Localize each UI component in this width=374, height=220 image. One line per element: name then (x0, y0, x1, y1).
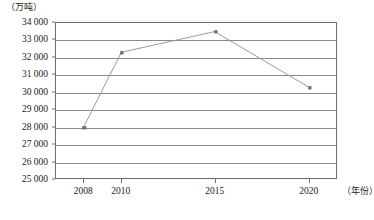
x-axis-tick-mark (121, 179, 122, 183)
x-axis-unit-label: （年份） (342, 186, 374, 197)
x-axis-tick-mark (309, 179, 310, 183)
x-axis-tick-label: 2015 (205, 186, 224, 197)
x-axis-tick-label: 2010 (111, 186, 130, 197)
x-axis-tick-label-group: 2008201020152020 (0, 0, 374, 220)
x-axis-tick-mark (83, 179, 84, 183)
line-chart-figure: （万吨） 25 00026 00027 00028 00029 00030 00… (0, 0, 374, 220)
x-axis-tick-mark (215, 179, 216, 183)
x-axis-tick-label: 2020 (299, 186, 318, 197)
x-axis-tick-label: 2008 (74, 186, 93, 197)
